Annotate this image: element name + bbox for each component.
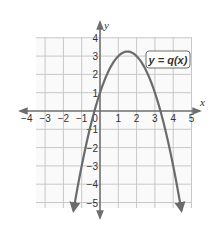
y-tick-label: 2 (92, 69, 98, 80)
x-tick-label: 2 (134, 113, 140, 124)
y-tick-label: −3 (87, 161, 99, 172)
function-label-box: y = q(x) (146, 51, 190, 68)
function-label: y = q(x) (148, 54, 188, 66)
x-tick-label: 4 (170, 113, 176, 124)
y-tick-label: 3 (92, 51, 98, 62)
x-tick-label: −1 (76, 113, 88, 124)
x-tick-label: 3 (152, 113, 158, 124)
y-axis-label: y (103, 19, 109, 31)
y-tick-label: −5 (87, 198, 99, 209)
x-axis-label: x (199, 96, 205, 108)
x-tick-label: −4 (21, 113, 33, 124)
y-tick-label: −4 (87, 179, 99, 190)
x-tick-label: 5 (189, 113, 195, 124)
x-tick-label: −2 (58, 113, 70, 124)
parabola-chart: −4−3−2−10123454321−1−2−3−4−5 x y y = q(x… (0, 0, 216, 233)
x-tick-label: −3 (39, 113, 51, 124)
y-tick-label: −2 (87, 143, 99, 154)
x-tick-label: 1 (116, 113, 122, 124)
y-tick-label: 4 (92, 33, 98, 44)
